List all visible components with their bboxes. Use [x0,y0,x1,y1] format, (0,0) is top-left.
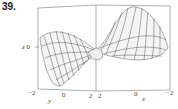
y-tick-0: 0 [62,91,66,99]
y-axis-label: y [48,97,51,105]
x-tick-0: 0 [134,90,138,98]
z-axis-label: z 0 [22,43,30,51]
x-tick-neg2: −2 [166,89,173,97]
x-tick-2: 2 [98,92,102,100]
z-tick-0: 0 [26,43,30,51]
y-tick-2: 2 [89,92,93,100]
y-tick-neg2: −2 [28,89,35,97]
z-letter: z [22,43,25,51]
x-axis-label: x [142,95,145,103]
